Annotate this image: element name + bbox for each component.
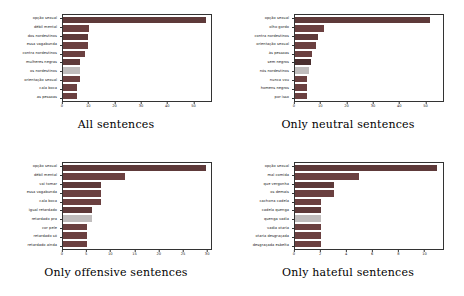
y-tick-label: contra nordestinos — [232, 32, 292, 41]
y-tick-mark — [60, 166, 62, 167]
panel-caption: All sentences — [0, 118, 232, 131]
bar — [63, 173, 125, 179]
x-tick-text: 6 — [371, 252, 373, 256]
y-tick-label: quenga vadia — [232, 215, 292, 224]
y-tick-mark — [292, 98, 294, 99]
x-tick-text: 0 — [61, 104, 63, 108]
bar — [295, 241, 321, 247]
axes-box — [294, 162, 444, 250]
y-tick-mark — [292, 175, 294, 176]
y-tick-mark — [292, 80, 294, 81]
bar-row — [63, 241, 211, 247]
bar — [295, 67, 309, 73]
x-tick-text: 50 — [423, 104, 428, 108]
bar-row — [63, 84, 211, 90]
y-tick-label: sem negros — [232, 58, 292, 67]
x-tick-text: 25 — [181, 252, 186, 256]
y-tick-label: nós nordestinos — [232, 67, 292, 76]
y-tick-label: nunca vou — [232, 76, 292, 85]
y-tick-label: essa vagabunda — [0, 188, 60, 197]
bar — [63, 232, 87, 238]
bar — [295, 59, 311, 65]
x-tick-text: 5 — [85, 252, 87, 256]
x-tick-label: 6 — [371, 250, 373, 256]
x-tick-text: 40 — [165, 104, 170, 108]
x-tick-text: 30 — [205, 252, 210, 256]
x-tick-text: 50 — [191, 104, 196, 108]
y-tick-mark — [60, 219, 62, 220]
y-tick-mark — [60, 71, 62, 72]
x-tick-label: 20 — [344, 102, 349, 108]
bar — [63, 17, 206, 23]
x-tick-label: 0 — [61, 102, 63, 108]
bar-row — [295, 241, 443, 247]
bar — [63, 67, 80, 73]
y-axis-labels: opção sexualdébil mentaldos nordestinose… — [0, 14, 60, 102]
y-tick-mark — [60, 89, 62, 90]
figure-grid: opção sexualdébil mentaldos nordestinose… — [0, 0, 464, 296]
y-tick-label: dos nordestinos — [0, 32, 60, 41]
bar-row — [63, 59, 211, 65]
bar — [63, 51, 85, 57]
bar-row — [295, 76, 443, 82]
bar-series — [295, 15, 443, 101]
y-tick-mark — [60, 45, 62, 46]
y-tick-mark — [292, 89, 294, 90]
x-tick-text: 0 — [293, 104, 295, 108]
bar — [63, 84, 77, 90]
y-tick-mark — [60, 18, 62, 19]
x-tick-text: 8 — [397, 252, 399, 256]
y-tick-mark — [292, 202, 294, 203]
y-tick-label: retardado ainda — [0, 241, 60, 250]
bar — [63, 34, 88, 40]
y-tick-mark — [60, 36, 62, 37]
y-tick-label: orientação sexual — [232, 40, 292, 49]
bar-series — [295, 163, 443, 249]
x-tick-label: 30 — [371, 102, 376, 108]
y-tick-label: cala boca — [0, 197, 60, 206]
x-tick-label: 5 — [85, 250, 87, 256]
x-tick-label: 15 — [132, 250, 137, 256]
y-tick-label: cadela quenga — [232, 206, 292, 215]
y-tick-mark — [292, 193, 294, 194]
bar-row — [295, 199, 443, 205]
bar-row — [63, 17, 211, 23]
y-tick-label: vadia otaria — [232, 224, 292, 233]
x-tick-label: 20 — [112, 102, 117, 108]
x-tick-label: 10 — [86, 102, 91, 108]
plot-area-all-sentences: opção sexualdébil mentaldos nordestinose… — [0, 0, 232, 116]
x-tick-label: 30 — [139, 102, 144, 108]
bar-row — [63, 173, 211, 179]
y-tick-mark — [60, 193, 62, 194]
bar — [63, 25, 89, 31]
y-tick-mark — [292, 166, 294, 167]
x-tick-text: 20 — [344, 104, 349, 108]
x-axis-ticks: 0246810 — [294, 250, 444, 260]
y-tick-label: débil mental — [0, 23, 60, 32]
y-tick-mark — [292, 45, 294, 46]
bar-row — [295, 207, 443, 213]
bar-row — [63, 207, 211, 213]
bar — [295, 84, 307, 90]
plot-area-neutral-sentences: opção sexualolho gordocontra nordestinos… — [232, 0, 464, 116]
bar-row — [295, 51, 443, 57]
y-tick-mark — [292, 184, 294, 185]
y-tick-mark — [60, 228, 62, 229]
y-tick-mark — [60, 184, 62, 185]
bar-row — [63, 93, 211, 99]
bar — [63, 76, 80, 82]
bar — [295, 34, 318, 40]
bar-row — [295, 25, 443, 31]
bar — [63, 59, 80, 65]
y-tick-mark — [60, 175, 62, 176]
x-tick-text: 10 — [108, 252, 113, 256]
bar-row — [63, 199, 211, 205]
y-tick-mark — [60, 246, 62, 247]
axes-box — [62, 14, 212, 102]
y-tick-label: contra nordestinos — [0, 49, 60, 58]
x-tick-label: 10 — [422, 250, 427, 256]
x-tick-text: 15 — [132, 252, 137, 256]
x-tick-label: 25 — [181, 250, 186, 256]
panel-all-sentences: opção sexualdébil mentaldos nordestinose… — [0, 0, 232, 148]
x-tick-label: 40 — [165, 102, 170, 108]
